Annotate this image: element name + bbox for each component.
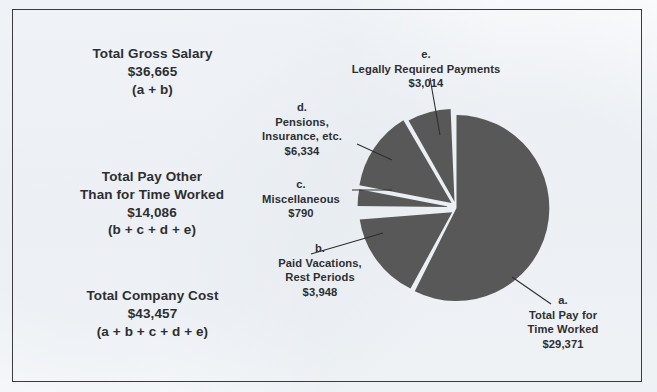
summary-other-label-line2: Than for Time Worked xyxy=(42,186,262,204)
summary-gross-amount: $36,665 xyxy=(60,63,245,81)
summary-total-company-cost: Total Company Cost $43,457 (a + b + c + … xyxy=(50,287,255,340)
summary-pay-other: Total Pay Other Than for Time Worked $14… xyxy=(42,168,262,239)
summary-gross-formula: (a + b) xyxy=(60,81,245,99)
summary-other-label-line1: Total Pay Other xyxy=(42,168,262,186)
callout-d-key: d. xyxy=(248,100,356,115)
summary-gross-label: Total Gross Salary xyxy=(60,45,245,63)
callout-a-key: a. xyxy=(508,293,618,308)
callout-e-amount: $3,014 xyxy=(332,76,520,91)
callout-e-key: e. xyxy=(332,47,520,62)
callout-b-key: b. xyxy=(264,241,376,256)
callout-c-line1: Miscellaneous xyxy=(246,192,356,207)
callout-a-line2: Time Worked xyxy=(508,322,618,337)
callout-d-amount: $6,334 xyxy=(248,144,356,159)
summary-total-label: Total Company Cost xyxy=(50,287,255,305)
summary-other-formula: (b + c + d + e) xyxy=(42,221,262,239)
callout-b-line1: Paid Vacations, xyxy=(264,256,376,271)
callout-a-line1: Total Pay for xyxy=(508,308,618,323)
summary-other-amount: $14,086 xyxy=(42,204,262,222)
summary-gross-salary: Total Gross Salary $36,665 (a + b) xyxy=(60,45,245,98)
callout-label-a: a. Total Pay for Time Worked $29,371 xyxy=(508,293,618,351)
callout-c-amount: $790 xyxy=(246,206,356,221)
figure-canvas: Total Gross Salary $36,665 (a + b) Total… xyxy=(0,0,657,392)
callout-a-amount: $29,371 xyxy=(508,337,618,352)
callout-b-line2: Rest Periods xyxy=(264,270,376,285)
callout-e-line1: Legally Required Payments xyxy=(332,62,520,77)
pie-slices xyxy=(358,109,550,301)
callout-b-amount: $3,948 xyxy=(264,285,376,300)
callout-d-line2: Insurance, etc. xyxy=(248,129,356,144)
callout-label-e: e. Legally Required Payments $3,014 xyxy=(332,47,520,91)
callout-label-b: b. Paid Vacations, Rest Periods $3,948 xyxy=(264,241,376,299)
summary-total-amount: $43,457 xyxy=(50,305,255,323)
callout-c-key: c. xyxy=(246,177,356,192)
summary-total-formula: (a + b + c + d + e) xyxy=(50,323,255,341)
callout-label-d: d. Pensions, Insurance, etc. $6,334 xyxy=(248,100,356,158)
callout-label-c: c. Miscellaneous $790 xyxy=(246,177,356,221)
callout-d-line1: Pensions, xyxy=(248,115,356,130)
